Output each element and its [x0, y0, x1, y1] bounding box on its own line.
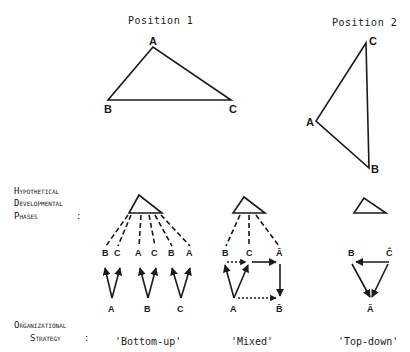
- phases-colon: :: [76, 211, 81, 221]
- position1-vertex-a: A: [149, 35, 157, 47]
- mixed-triangle: [233, 197, 265, 213]
- node-label: A: [108, 304, 115, 314]
- node-label: A: [186, 248, 193, 258]
- node-label: C: [151, 248, 158, 258]
- position2-vertex-a: A: [306, 116, 314, 128]
- node-label: C: [177, 304, 184, 314]
- position2-vertex-c: C: [369, 35, 377, 47]
- node-label: C: [114, 248, 121, 258]
- position2-title: Position 2: [332, 17, 397, 28]
- node-label: B: [144, 304, 151, 314]
- node-label: B: [348, 248, 355, 258]
- strategy-label-line1: Organizational: [14, 320, 67, 330]
- phases-label-line2: Developmental: [14, 198, 63, 208]
- node-label: Ĉ: [386, 247, 393, 258]
- bottom-up-diagram: B C A C B A A B C 'Bottom-up': [102, 195, 193, 347]
- strategy-colon: :: [84, 333, 89, 343]
- mixed-label: 'Mixed': [231, 336, 273, 347]
- bottom-up-triangle: [129, 195, 162, 213]
- node-label: C: [246, 248, 253, 258]
- phases-label-line1: Hypothetical: [14, 186, 60, 196]
- node-label: A: [135, 248, 142, 258]
- node-label: B: [222, 248, 229, 258]
- node-label: B: [168, 248, 175, 258]
- top-down-triangle: [354, 198, 386, 213]
- node-label: B: [102, 248, 109, 258]
- position1-vertex-b: B: [104, 103, 112, 115]
- node-label: A: [230, 304, 237, 314]
- diagram-canvas: Position 1 A B C Position 2 C A B Hypoth…: [0, 0, 410, 352]
- top-down-label: 'Top-down': [338, 336, 398, 347]
- strategy-label-line2: Strategy: [30, 333, 61, 343]
- position2-vertex-b: B: [371, 163, 379, 175]
- node-label: B̄: [276, 304, 283, 314]
- position1-triangle: [108, 47, 231, 100]
- node-label: Ā: [276, 248, 283, 258]
- node-label: Ā: [367, 304, 374, 314]
- phases-label-line3: Phases: [14, 211, 38, 221]
- position2-triangle: [316, 43, 369, 168]
- bottom-up-label: 'Bottom-up': [115, 336, 181, 347]
- mixed-diagram: B C Ā A B̄ 'Mixed': [222, 197, 283, 347]
- position1-title: Position 1: [128, 15, 193, 26]
- top-down-diagram: B Ĉ Ā 'Top-down': [338, 198, 398, 347]
- position1-vertex-c: C: [229, 103, 237, 115]
